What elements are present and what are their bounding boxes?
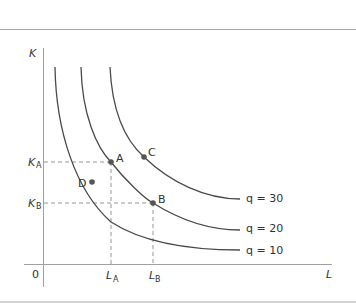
point-b-marker [150, 200, 156, 206]
isoquant-diagram: A B C D K L 0 K A K B L A L B q = 30 q =… [0, 0, 356, 305]
q30-label: q = 30 [246, 192, 283, 205]
q20-label: q = 20 [246, 222, 283, 235]
point-b-label: B [158, 193, 166, 206]
point-a-label: A [116, 152, 124, 165]
kb-tick-label: K B [28, 197, 42, 211]
svg-text:B: B [155, 275, 161, 284]
point-c-marker [141, 154, 147, 160]
isoquant-q30 [110, 67, 240, 199]
point-d-marker [89, 179, 95, 185]
svg-text:A: A [113, 275, 119, 284]
point-a-marker [108, 159, 114, 165]
svg-text:K: K [28, 197, 36, 210]
origin-label: 0 [32, 268, 39, 281]
guide-lines [44, 162, 153, 264]
q10-label: q = 10 [246, 244, 283, 257]
svg-text:B: B [36, 202, 42, 211]
svg-text:L: L [106, 269, 112, 282]
la-tick-label: L A [106, 269, 119, 284]
svg-text:A: A [36, 161, 42, 170]
y-axis-label: K [29, 47, 37, 60]
x-axis-label: L [326, 268, 332, 281]
svg-text:K: K [28, 156, 36, 169]
point-c-label: C [148, 146, 156, 159]
lb-tick-label: L B [149, 269, 161, 284]
ka-tick-label: K A [28, 156, 42, 170]
point-d-label: D [78, 177, 86, 190]
